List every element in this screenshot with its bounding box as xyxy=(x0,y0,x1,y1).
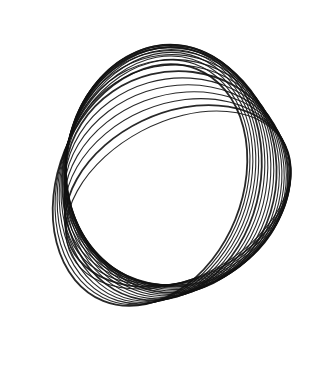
ellipse-loop xyxy=(36,60,310,317)
ellipse-loop xyxy=(37,55,310,314)
harmonograph-drawing xyxy=(0,0,310,378)
ellipse-loops-figure xyxy=(0,0,310,378)
ellipse-loop xyxy=(39,51,310,311)
